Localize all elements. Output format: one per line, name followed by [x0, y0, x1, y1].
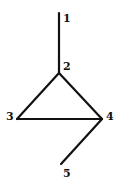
node-label-2: 2 [63, 60, 71, 73]
node-label-3: 3 [6, 110, 14, 123]
edge-2-3 [17, 73, 59, 119]
node-label-4: 4 [106, 110, 114, 123]
edge-2-4 [59, 73, 102, 119]
edge-4-5 [61, 119, 102, 164]
node-label-5: 5 [63, 167, 71, 180]
node-label-1: 1 [63, 12, 71, 25]
edges [17, 13, 102, 164]
graph-diagram: 12345 [0, 0, 118, 181]
